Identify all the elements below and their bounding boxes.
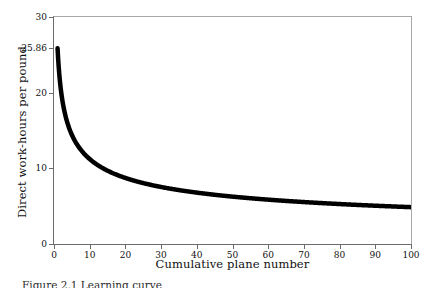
x-tick-40 [197, 244, 198, 249]
figure-container: Direct work-hours per pound 0 10 20 25.8… [0, 0, 429, 288]
x-tick-50 [233, 244, 234, 249]
x-tick-30 [161, 244, 162, 249]
plot-area: 0 10 20 25.86 30 0 10 20 30 40 50 60 70 … [53, 16, 412, 245]
y-tick-label-10: 10 [36, 163, 47, 173]
learning-curve-line [54, 17, 411, 244]
x-tick-80 [340, 244, 341, 249]
x-tick-60 [268, 244, 269, 249]
y-tick-label-0: 0 [41, 239, 47, 249]
x-tick-0 [54, 244, 55, 249]
x-tick-10 [90, 244, 91, 249]
y-tick-label-2586: 25.86 [21, 43, 47, 53]
x-axis-title: Cumulative plane number [53, 257, 412, 271]
x-tick-90 [375, 244, 376, 249]
x-tick-100 [411, 244, 412, 249]
figure-caption: Figure 2.1 Learning curve [22, 279, 412, 288]
y-tick-label-20: 20 [36, 88, 47, 98]
x-tick-70 [304, 244, 305, 249]
x-tick-20 [125, 244, 126, 249]
y-axis-title: Direct work-hours per pound [15, 32, 29, 232]
y-tick-label-30: 30 [36, 12, 47, 22]
